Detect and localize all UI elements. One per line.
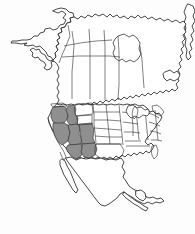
state-colorado — [79, 123, 95, 144]
map-figure — [0, 0, 195, 234]
state-oregon — [51, 106, 68, 124]
region-hudson-bay — [113, 34, 141, 62]
region-mexico — [66, 157, 164, 206]
north-america-map — [0, 0, 195, 234]
boundary-east-4 — [151, 140, 162, 141]
region-newfoundland — [163, 70, 180, 81]
state-nevada — [53, 123, 70, 145]
